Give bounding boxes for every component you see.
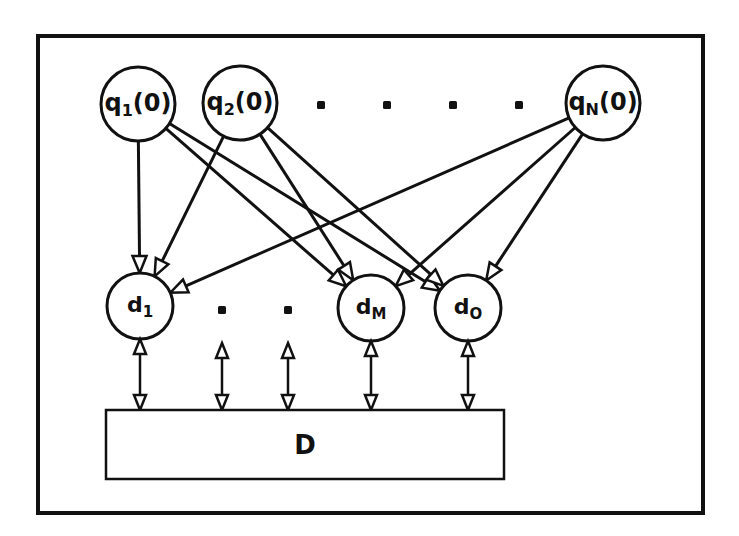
arrowhead-icon — [365, 395, 377, 410]
document-ellipsis — [218, 306, 292, 314]
edge-q1-d1 — [133, 141, 147, 273]
edge-q1-dM — [166, 128, 346, 286]
arrowhead-icon — [155, 258, 169, 276]
arrowhead-icon — [282, 395, 294, 410]
arrowhead-icon — [134, 395, 146, 410]
ellipsis-dot — [218, 306, 226, 314]
ellipsis-dot — [317, 101, 325, 109]
store-label: D — [294, 430, 316, 460]
document-node-dM: dM — [338, 275, 404, 341]
query-to-document-edges — [133, 118, 583, 293]
edge-q2-dM — [260, 134, 353, 280]
arrowhead-icon — [134, 339, 146, 354]
ellipsis-dot — [383, 101, 391, 109]
arrowhead-icon — [170, 280, 188, 293]
node-label: q2(0) — [207, 88, 274, 120]
arrowhead-icon — [486, 262, 501, 280]
arrowhead-icon — [282, 343, 294, 358]
bidirectional-link — [216, 343, 228, 410]
bidirectional-link — [365, 341, 377, 410]
bidirectional-link — [134, 339, 146, 410]
edge-qN-dO — [486, 134, 583, 281]
document-node-dO: dO — [435, 275, 501, 341]
document-node-d1: d1 — [107, 273, 173, 339]
document-store-links — [134, 339, 474, 410]
arrowhead-icon — [133, 256, 147, 273]
edge-q2-d1 — [155, 136, 224, 276]
diagram-canvas: q1(0)q2(0)qN(0) d1dMdO D — [0, 0, 739, 536]
node-label: qN(0) — [568, 88, 637, 120]
arrowhead-icon — [462, 395, 474, 410]
ellipsis-dot — [515, 101, 523, 109]
ellipsis-dot — [449, 101, 457, 109]
edge-qN-d1 — [170, 118, 569, 293]
edge-q1-dO — [169, 123, 439, 290]
arrowhead-icon — [365, 341, 377, 356]
bidirectional-link — [462, 341, 474, 410]
arrowhead-icon — [216, 343, 228, 358]
arrowhead-icon — [216, 395, 228, 410]
query-node-q1: q1(0) — [101, 67, 175, 141]
bidirectional-link — [282, 343, 294, 410]
node-label: q1(0) — [105, 89, 172, 121]
query-ellipsis — [317, 101, 523, 109]
query-node-q2: q2(0) — [203, 66, 277, 140]
ellipsis-dot — [284, 306, 292, 314]
edge-qN-dM — [396, 127, 576, 286]
document-store-D: D — [106, 410, 504, 479]
query-node-qN: qN(0) — [566, 66, 640, 140]
edge-q2-dO — [268, 128, 444, 286]
arrowhead-icon — [462, 341, 474, 356]
